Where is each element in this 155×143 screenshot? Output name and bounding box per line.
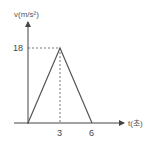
y-tick-18: 18 — [13, 43, 23, 53]
y-axis-label: v(m/s²) — [14, 10, 39, 19]
x-tick-3: 3 — [57, 128, 62, 138]
x-tick-6: 6 — [89, 128, 94, 138]
x-axis-label: t(초) — [128, 119, 143, 128]
chart: v(m/s²) 18 3 6 t(초) — [0, 0, 155, 143]
